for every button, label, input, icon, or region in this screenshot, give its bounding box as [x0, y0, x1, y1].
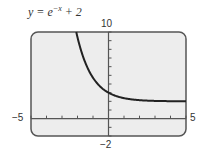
xmin-label: −5: [12, 112, 23, 123]
ymax-label: 10: [101, 18, 112, 29]
ymin-label: −2: [100, 139, 111, 150]
xmax-label: 5: [190, 112, 196, 123]
